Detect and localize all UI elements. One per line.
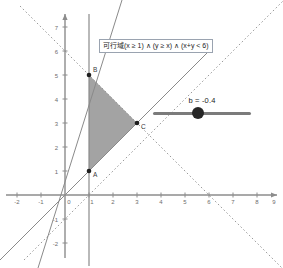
- x-tick-label-origin: 0: [67, 199, 71, 205]
- y-tick-label: 4: [55, 97, 59, 103]
- feasible-region-polygon: [89, 75, 137, 171]
- x-tick-label: -1: [38, 199, 44, 205]
- x-tick-label: 4: [159, 199, 163, 205]
- y-tick-label: 2: [55, 145, 59, 151]
- point-C-label: C: [141, 123, 146, 130]
- y-tick-label: 7: [55, 25, 59, 31]
- slider-b-value-label: b = -0.4: [151, 96, 253, 105]
- y-tick-label: 3: [55, 121, 59, 127]
- point-A[interactable]: [87, 169, 92, 174]
- x-axis-arrow: [271, 192, 277, 197]
- x-tick-label: 5: [183, 199, 187, 205]
- point-B-label: B: [93, 66, 97, 73]
- line-y-equals-x: [0, 50, 210, 260]
- x-tick-label: 8: [255, 199, 259, 205]
- y-axis-arrow: [62, 14, 67, 20]
- y-tick-label: 6: [55, 49, 59, 55]
- x-tick-label: 9: [272, 199, 276, 205]
- x-tick-label: -2: [14, 199, 20, 205]
- point-A-label: A: [93, 171, 98, 178]
- point-C[interactable]: [135, 121, 140, 126]
- x-tick-label: 6: [207, 199, 211, 205]
- y-tick-label: 5: [55, 73, 59, 79]
- y-tick-label: -1: [53, 217, 59, 223]
- condition-label: 可行域(x ≥ 1) ∧ (y ≥ x) ∧ (x+y < 6): [99, 39, 213, 53]
- slider-b-knob[interactable]: [192, 107, 204, 119]
- x-tick-label: 3: [135, 199, 139, 205]
- x-tick-label: 7: [231, 199, 235, 205]
- geometry-canvas: -2 -1 0 1 2 3 4 5 6 7 8 9 -2 -1 1 2 3 4 …: [0, 0, 283, 268]
- point-B[interactable]: [87, 73, 92, 78]
- y-tick-label: -2: [53, 241, 59, 247]
- x-tick-label: 2: [111, 199, 115, 205]
- x-tick-label: 1: [90, 199, 94, 205]
- y-tick-label: 1: [55, 169, 59, 175]
- slider-b[interactable]: b = -0.4: [151, 96, 253, 122]
